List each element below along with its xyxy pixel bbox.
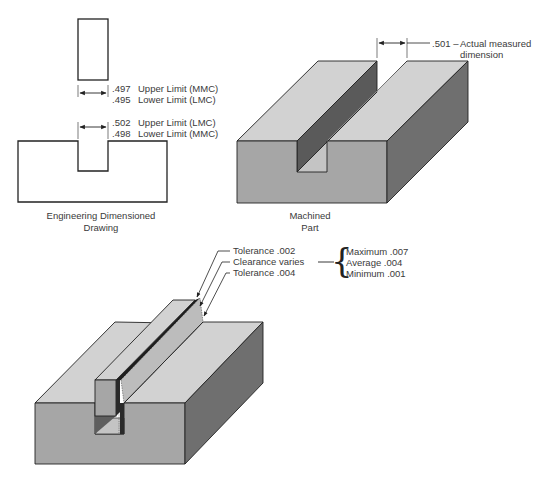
- drawing-caption-line1: Engineering Dimensioned: [20, 210, 182, 222]
- measured-label-line1: Actual measured: [460, 38, 531, 49]
- slot-lower-value: .498: [112, 128, 131, 139]
- drawing-caption: Engineering Dimensioned Drawing: [20, 210, 182, 234]
- callout-clearance-varies: Clearance varies: [233, 256, 304, 267]
- shaft-upper-label: Upper Limit (MMC): [138, 83, 218, 94]
- slotted-block-outline: [18, 141, 167, 202]
- assembly: [35, 251, 334, 464]
- leader-tolerance-004: [204, 273, 230, 316]
- slot-upper-label: Upper Limit (LMC): [138, 117, 216, 128]
- shaft-outline: [78, 19, 108, 80]
- clearance-minimum: Minimum .001: [346, 268, 406, 279]
- shaft-upper-value: .497: [112, 83, 131, 94]
- slot-lower-label: Lower Limit (MMC): [138, 128, 218, 139]
- slot-right-wall-edge: [120, 403, 124, 434]
- machined-caption: Machined Part: [280, 210, 340, 234]
- insert-front-face: [95, 380, 116, 416]
- insert-right-side: [116, 380, 120, 416]
- leader-clearance: [200, 262, 230, 306]
- shaft-lower-value: .495: [112, 94, 131, 105]
- machined-part: [237, 38, 468, 203]
- machined-caption-line1: Machined: [280, 210, 340, 222]
- measured-value: .501 –: [432, 38, 458, 49]
- machined-caption-line2: Part: [280, 222, 340, 234]
- engineering-drawing: [18, 19, 167, 202]
- callout-tolerance-002: Tolerance .002: [233, 245, 295, 256]
- slot-upper-value: .502: [112, 117, 131, 128]
- fit-diagram-canvas: [0, 0, 548, 481]
- clearance-average: Average .004: [346, 257, 402, 268]
- shaft-lower-label: Lower Limit (LMC): [138, 94, 216, 105]
- clearance-maximum: Maximum .007: [346, 246, 408, 257]
- measured-label-line2: dimension: [460, 49, 503, 60]
- callout-tolerance-004: Tolerance .004: [233, 267, 295, 278]
- drawing-caption-line2: Drawing: [20, 222, 182, 234]
